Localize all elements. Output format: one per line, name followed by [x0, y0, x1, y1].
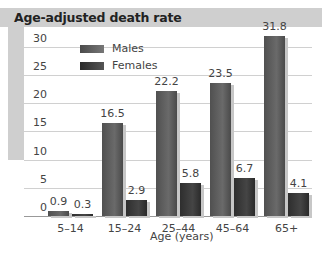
chart-title: Age-adjusted death rate	[14, 10, 182, 25]
legend-label-females: Females	[112, 59, 158, 72]
x-tick-label: 45–64	[208, 222, 258, 235]
males-swatch-icon	[80, 45, 104, 53]
left-frame-strip	[8, 27, 24, 160]
value-label: 16.5	[93, 107, 133, 120]
value-label: 5.8	[171, 167, 211, 180]
bar-males-0	[48, 211, 69, 216]
value-label: 0.3	[63, 198, 103, 211]
bar-females-0	[72, 214, 93, 216]
legend-label-males: Males	[112, 42, 144, 55]
legend-item-males: Males	[80, 40, 158, 57]
plot-area: 0510152025300.90.35–1416.52.915–2422.25.…	[24, 27, 316, 217]
bar-males-2	[156, 91, 177, 216]
value-label: 2.9	[117, 184, 157, 197]
legend: Males Females	[80, 40, 158, 74]
y-tick-label: 30	[27, 32, 47, 45]
bar-females-2	[180, 183, 201, 216]
value-label: 6.7	[225, 162, 265, 175]
x-tick-label: 5–14	[46, 222, 96, 235]
y-tick-label: 25	[27, 60, 47, 73]
x-axis-line	[24, 216, 312, 217]
x-axis-title: Age (years)	[150, 230, 214, 243]
bar-females-1	[126, 200, 147, 216]
legend-item-females: Females	[80, 57, 158, 74]
females-swatch-icon	[80, 62, 104, 70]
bar-females-3	[234, 178, 255, 216]
value-label: 23.5	[201, 67, 241, 80]
y-tick-label: 5	[27, 173, 47, 186]
y-tick-label: 15	[27, 116, 47, 129]
bar-males-1	[102, 123, 123, 216]
y-tick-label: 20	[27, 88, 47, 101]
bar-females-4	[288, 193, 309, 216]
value-label: 22.2	[147, 75, 187, 88]
x-tick-label: 65+	[262, 222, 312, 235]
value-label: 4.1	[279, 177, 319, 190]
y-tick-label: 10	[27, 145, 47, 158]
x-tick-label: 15–24	[100, 222, 150, 235]
value-label: 31.8	[255, 20, 295, 33]
bar-males-3	[210, 83, 231, 216]
